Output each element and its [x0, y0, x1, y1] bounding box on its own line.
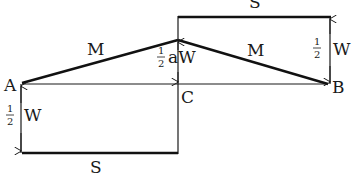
right-fraction-denominator: 2	[314, 49, 320, 60]
moment-label-right: M	[247, 40, 264, 60]
left-value-label: W	[24, 105, 42, 125]
shear-moment-diagram: A B C M M S S 1 2 aW 1 2 W 1 2 W	[0, 0, 352, 177]
right-value-label: W	[333, 39, 351, 59]
left-fraction-denominator: 2	[7, 116, 13, 127]
moment-label-left: M	[87, 39, 104, 59]
point-label-a: A	[3, 75, 17, 95]
apex-fraction-denominator: 2	[158, 58, 164, 69]
right-fraction-numerator: 1	[314, 36, 320, 47]
point-label-c: C	[181, 87, 194, 107]
shear-label-bottom: S	[90, 157, 102, 177]
apex-fraction-numerator: 1	[158, 45, 164, 56]
shear-label-top: S	[249, 0, 261, 12]
left-fraction-numerator: 1	[7, 103, 13, 114]
point-label-b: B	[332, 77, 345, 97]
apex-value-label: aW	[168, 47, 196, 67]
